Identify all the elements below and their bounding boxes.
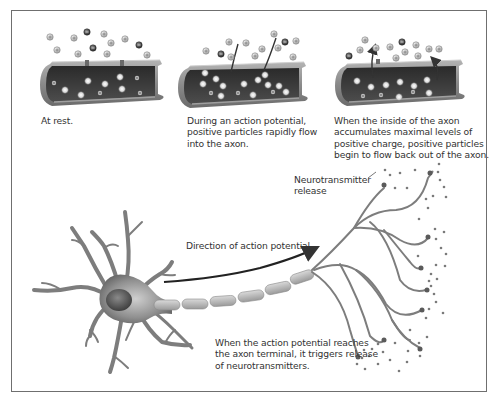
label-line: Neurotransmitter — [294, 174, 371, 185]
caption-line: accumulates maximal levels of — [334, 126, 489, 137]
axon-segment-at-rest — [40, 29, 164, 106]
caption-line: the axon terminal, it triggers release — [215, 348, 378, 359]
neurotransmitter-release-label: Neurotransmitter release — [294, 174, 371, 197]
terminal-caption: When the action potential reaches the ax… — [215, 337, 378, 371]
axon-segment-depolarizing — [178, 31, 308, 108]
caption-line: When the inside of the axon — [334, 115, 489, 126]
nucleus — [106, 289, 132, 311]
caption-line: positive charge, positive particles — [334, 138, 489, 149]
caption-line: positive particles rapidly flow — [187, 126, 317, 137]
label-line: release — [294, 185, 371, 196]
caption-line: During an action potential, — [187, 115, 317, 126]
caption-line: When the action potential reaches — [215, 337, 378, 348]
direction-label: Direction of action potential — [186, 240, 310, 251]
caption-line: into the axon. — [187, 138, 317, 149]
caption-repolarization: When the inside of the axon accumulates … — [334, 115, 489, 161]
caption-line: begin to flow back out of the axon. — [334, 149, 489, 160]
caption-action-potential: During an action potential, positive par… — [187, 115, 317, 149]
caption-line: of neurotransmitters. — [215, 360, 378, 371]
axon-segment-repolarizing — [335, 37, 465, 106]
caption-at-rest: At rest. — [41, 115, 73, 126]
